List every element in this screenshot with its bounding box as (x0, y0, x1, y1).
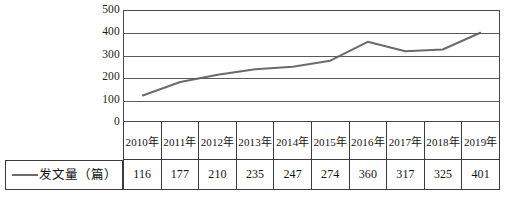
header-legend-spacer (5, 122, 123, 160)
table-data-cell: 325 (424, 160, 462, 190)
table-data-cell: 401 (461, 160, 500, 190)
table-header-cell: 2012年 (198, 122, 236, 160)
table-data-cell: 360 (349, 160, 387, 190)
table-header-cell: 2018年 (424, 122, 462, 160)
series-polyline (143, 33, 481, 96)
y-axis-tick-label: 100 (78, 94, 120, 106)
legend-label: 发文量（篇） (39, 168, 117, 182)
table-header-cell: 2015年 (311, 122, 349, 160)
table-header-cell: 2016年 (349, 122, 387, 160)
y-axis-tick-labels: 5004003002001000 (78, 0, 120, 130)
table-header-cell: 2010年 (123, 122, 161, 160)
table-data-cell: 247 (273, 160, 311, 190)
table-data-cell: 210 (198, 160, 236, 190)
gridline (124, 101, 499, 102)
table-header-cell: 2011年 (161, 122, 199, 160)
table-header-cell: 2017年 (386, 122, 424, 160)
table-data-cell: 116 (123, 160, 161, 190)
gridline (124, 56, 499, 57)
gridline (124, 33, 499, 34)
y-axis-tick-label: 400 (78, 26, 120, 38)
plot-area (123, 10, 500, 122)
y-axis-tick-label: 300 (78, 49, 120, 61)
y-axis-tick-label: 500 (78, 4, 120, 16)
legend-entry: 发文量（篇） (5, 160, 123, 190)
data-table: 2010年2011年2012年2013年2014年2015年2016年2017年… (5, 122, 500, 190)
line-chart-with-data-table: 5004003002001000 2010年2011年2012年2013年201… (0, 0, 507, 197)
table-data-cell: 177 (161, 160, 199, 190)
table-data-cell: 235 (236, 160, 274, 190)
y-axis-tick-label: 200 (78, 71, 120, 83)
table-data-cell: 317 (386, 160, 424, 190)
gridline (124, 78, 499, 79)
table-data-row: 发文量（篇） 116177210235247274360317325401 (5, 160, 500, 190)
table-header-cell: 2019年 (461, 122, 500, 160)
series-line-发文量 (124, 11, 499, 121)
table-header-cell: 2013年 (236, 122, 274, 160)
line-swatch-icon (12, 174, 38, 176)
table-data-cell: 274 (311, 160, 349, 190)
table-header-row: 2010年2011年2012年2013年2014年2015年2016年2017年… (5, 122, 500, 160)
table-header-cell: 2014年 (273, 122, 311, 160)
